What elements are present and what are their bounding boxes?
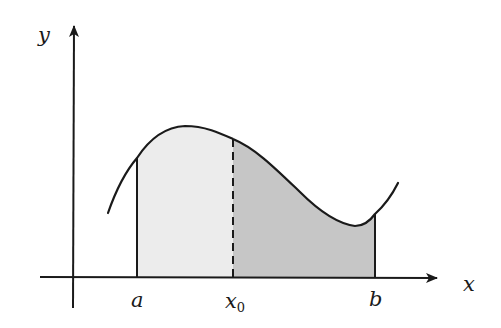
x-axis: [40, 277, 437, 278]
diagram-svg: [0, 0, 501, 328]
point-b-label: b: [369, 289, 382, 310]
diagram-canvas: y x a x0 b: [0, 0, 501, 328]
x0-base: x: [225, 289, 237, 313]
y-axis-label: y: [38, 25, 50, 46]
point-x0-label: x0: [225, 291, 245, 314]
x0-subscript: 0: [237, 300, 245, 315]
right-shaded-region: [233, 139, 375, 277]
y-axis: [73, 26, 74, 308]
point-a-label: a: [131, 290, 144, 311]
x-axis-label: x: [463, 274, 475, 295]
left-shaded-region: [137, 126, 233, 277]
